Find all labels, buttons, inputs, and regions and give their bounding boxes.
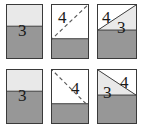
panel-4: 3 [6,69,43,124]
paper-folding-figure: 3 4 4 3 3 [0,0,144,137]
panel-5-graphic [52,70,88,123]
panel-3: 4 3 [97,4,137,59]
lower-band [7,91,42,123]
lower-band [52,39,88,58]
lower-band [52,104,88,123]
panel-1: 3 [6,4,43,59]
panel-4-graphic [7,70,42,123]
panel-5: 4 [51,69,89,124]
upper-band [7,5,42,26]
panel-2: 4 [51,4,89,59]
panel-2-graphic [52,5,88,58]
panel-3-graphic [98,5,136,58]
upper-band [7,70,42,91]
panel-1-graphic [7,5,42,58]
panel-6: 4 3 [97,69,137,124]
panel-6-graphic [98,70,136,123]
lower-band [7,26,42,58]
